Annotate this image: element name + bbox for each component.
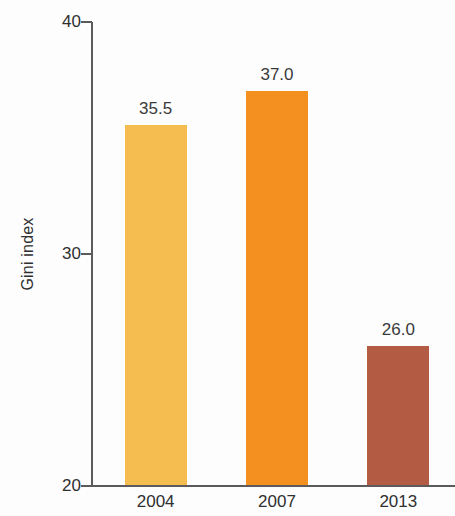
bar[interactable] — [367, 346, 429, 485]
y-axis-tick-mark — [81, 21, 92, 23]
y-axis-tick-label: 40 — [37, 12, 81, 32]
x-axis-tick-label: 2007 — [258, 492, 296, 512]
plot-area: 35.537.026.0 — [91, 22, 455, 486]
bar[interactable] — [125, 125, 187, 485]
y-axis-tick-mark — [81, 485, 92, 487]
bar-chart: Gini index 203040 35.537.026.0 200420072… — [0, 0, 455, 516]
bar[interactable] — [246, 91, 308, 485]
y-axis-tick-label: 30 — [37, 244, 81, 264]
x-axis-tick-label: 2004 — [137, 492, 175, 512]
y-axis-tick-mark — [81, 253, 92, 255]
x-axis-line — [91, 485, 455, 487]
y-axis-tick-labels: 203040 — [25, 22, 81, 486]
x-axis-tick-label: 2013 — [379, 492, 417, 512]
bar-value-label: 26.0 — [382, 320, 415, 340]
y-axis-tick-label: 20 — [37, 476, 81, 496]
bar-value-label: 37.0 — [260, 65, 293, 85]
bar-value-label: 35.5 — [139, 99, 172, 119]
